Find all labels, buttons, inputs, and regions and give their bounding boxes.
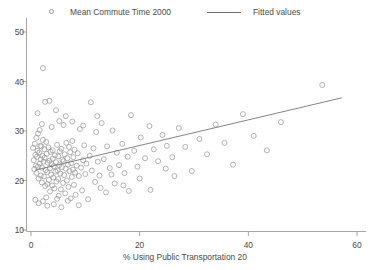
data-point [86,197,91,202]
data-point [57,119,62,124]
data-point [88,100,93,105]
y-tick-label: 40 [6,78,24,86]
data-point [205,152,210,157]
data-point [143,156,148,161]
y-tick-label: 20 [6,177,24,185]
data-point [117,163,122,168]
y-tick-label: 50 [6,28,24,36]
data-point [81,123,86,128]
data-point [151,147,156,152]
legend-entry-fitted: Fitted values [207,0,300,24]
data-point [73,192,78,197]
data-point [51,202,56,207]
data-point [89,168,94,173]
data-point [63,191,68,196]
y-tick-label: 10 [6,226,24,234]
data-point [135,164,140,169]
data-point [128,113,133,118]
data-point [176,126,181,131]
data-point [70,138,75,143]
data-point [49,125,54,130]
x-tick-label: 0 [19,241,43,249]
data-point [78,165,83,170]
data-point [83,172,88,177]
legend-label-fitted: Fitted values [253,8,300,16]
data-point [278,120,283,125]
data-point [97,173,102,178]
legend-entry-scatter: Mean Commute Time 2000 [42,0,171,24]
data-point [64,178,69,183]
data-point [163,166,168,171]
data-point [125,154,130,159]
data-point [99,121,104,126]
data-point [121,183,126,188]
data-point [132,148,137,153]
data-point [75,151,80,156]
data-point [66,184,71,189]
data-point [71,182,76,187]
data-point [264,148,269,153]
data-point [40,66,45,71]
data-point [93,179,98,184]
data-point [63,114,68,119]
data-point [231,162,236,167]
data-point [137,176,142,181]
data-point [126,188,131,193]
data-point [189,169,194,174]
circle-marker-icon [42,6,64,18]
data-point [213,122,218,127]
data-point [45,203,50,208]
legend-label-scatter: Mean Commute Time 2000 [70,8,171,16]
data-point [172,174,177,179]
data-point [84,161,89,166]
data-point [53,108,58,113]
chart-legend: Mean Commute Time 2000 Fitted values [0,0,370,24]
data-point [110,128,115,133]
data-point [71,155,76,160]
data-point [164,143,169,148]
data-point [222,140,227,145]
data-point [105,144,110,149]
data-point [95,159,100,164]
data-point [147,124,152,129]
data-point [112,181,117,186]
data-point [148,187,153,192]
data-point [55,196,60,201]
data-point [91,146,96,151]
data-point [183,144,188,149]
data-point [98,185,103,190]
data-point [39,122,44,127]
data-point [240,112,245,117]
x-tick-label: 20 [128,241,152,249]
data-point [67,144,72,149]
x-tick-label: 40 [236,241,260,249]
data-point [69,175,74,180]
data-point [94,129,99,134]
data-point [42,174,47,179]
data-point [44,195,49,200]
data-point [170,155,175,160]
data-point [197,136,202,141]
data-point [56,193,61,198]
data-point [55,142,60,147]
data-point [156,159,161,164]
data-point [80,188,85,193]
data-point [122,171,127,176]
data-point [35,111,40,116]
data-point [103,190,108,195]
data-point [101,157,106,162]
fitted-line [35,98,341,170]
line-marker-icon [207,6,245,18]
data-point [82,143,87,148]
data-point [138,135,143,140]
data-point [67,169,72,174]
data-point [109,172,114,177]
x-axis-label: % Using Public Transportation 20 [0,252,370,262]
data-point [59,205,64,210]
plot-canvas [0,0,370,270]
data-point [61,123,66,128]
data-point [107,166,112,171]
data-point [76,203,81,208]
x-tick-label: 60 [345,241,369,249]
data-point [70,119,75,124]
